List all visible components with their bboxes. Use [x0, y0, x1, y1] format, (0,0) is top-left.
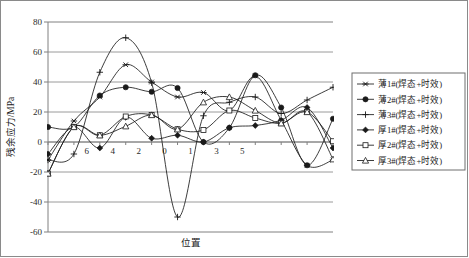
marker-filled-circle	[45, 124, 50, 129]
y-tick-label: 40	[33, 77, 43, 87]
marker-filled-circle	[330, 116, 335, 121]
marker-open-square	[227, 108, 232, 113]
x-tick-label: 1	[188, 146, 193, 156]
y-axis-tick-labels: -60-40-20020406080	[30, 17, 48, 237]
marker-open-square	[331, 139, 336, 144]
marker-filled-diamond	[97, 145, 103, 151]
marker-filled-circle	[363, 97, 368, 102]
x-tick-label: 3	[214, 146, 219, 156]
marker-open-square	[363, 143, 368, 148]
series-line-path	[48, 96, 333, 173]
marker-filled-diamond	[149, 135, 155, 141]
y-tick-label: 0	[38, 137, 43, 147]
legend-label: 薄1#(焊态+时效)	[378, 78, 442, 89]
y-tick-label: -40	[30, 197, 42, 207]
x-tick-label: 5	[240, 146, 245, 156]
marker-open-triangle	[123, 123, 129, 129]
y-tick-label: 80	[33, 17, 43, 27]
y-tick-label: 20	[33, 107, 43, 117]
marker-filled-circle	[279, 105, 284, 110]
data-series-group	[45, 35, 336, 221]
legend-label: 厚3#(焊态+时效)	[378, 155, 442, 166]
x-tick-label: 4	[111, 146, 116, 156]
marker-filled-diamond	[175, 132, 181, 138]
marker-open-square	[253, 116, 258, 121]
marker-open-triangle	[200, 99, 206, 105]
legend-label: 薄3#(焊态+时效)	[378, 109, 442, 120]
marker-filled-diamond	[330, 145, 336, 151]
chart-axes	[48, 22, 333, 232]
y-axis-title: 残余应力/MPa	[5, 96, 16, 157]
marker-open-square	[123, 114, 128, 119]
marker-filled-circle	[304, 163, 309, 168]
legend-label: 厚2#(焊态+时效)	[378, 139, 442, 150]
legend-label: 厚1#(焊态+时效)	[378, 124, 442, 135]
marker-filled-diamond	[252, 123, 258, 129]
y-tick-label: -60	[30, 227, 42, 237]
x-axis-title: 位置	[181, 237, 201, 248]
marker-filled-circle	[175, 85, 180, 90]
marker-open-triangle	[252, 107, 258, 113]
marker-filled-circle	[253, 73, 258, 78]
y-tick-label: 60	[33, 47, 43, 57]
x-tick-label: 2	[136, 146, 141, 156]
x-axis-tick-labels: 6420135	[48, 142, 333, 156]
grid-lines	[48, 52, 333, 202]
chart-legend: 薄1#(焊态+时效)薄2#(焊态+时效)薄3#(焊态+时效)厚1#(焊态+时效)…	[352, 73, 465, 170]
marker-open-square	[201, 128, 206, 133]
legend-label: 薄2#(焊态+时效)	[378, 94, 442, 105]
marker-filled-circle	[123, 85, 128, 90]
x-tick-label: 6	[85, 146, 90, 156]
series-line-path	[48, 38, 333, 218]
y-tick-label: -20	[30, 167, 42, 177]
marker-filled-circle	[97, 93, 102, 98]
series-3	[45, 35, 336, 221]
residual-stress-line-chart: -60-40-20020406080 6420135 薄1#(焊态+时效)薄2#…	[0, 0, 469, 258]
marker-open-triangle	[330, 156, 336, 162]
